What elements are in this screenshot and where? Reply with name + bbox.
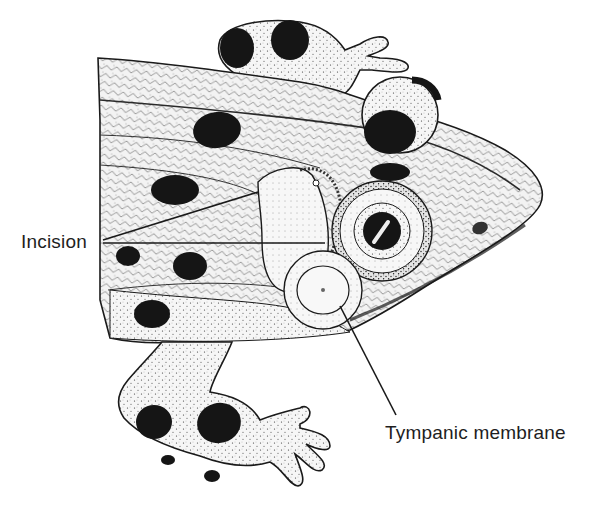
spot [116,246,140,266]
spot [173,252,207,280]
spot [220,28,254,68]
frog-illustration [0,0,616,525]
far-eye [362,77,438,154]
spot [370,163,410,181]
tympanic-membrane-label: Tympanic membrane [385,422,566,444]
tympanic-membrane [284,251,362,329]
incision-label: Incision [21,231,87,253]
lower-forelimb [119,342,330,486]
spot [204,470,220,482]
spot [151,175,199,205]
spot [161,455,175,465]
tympanic-leader [340,306,396,415]
spot [271,20,309,60]
spot [134,300,170,328]
spot [136,405,172,439]
